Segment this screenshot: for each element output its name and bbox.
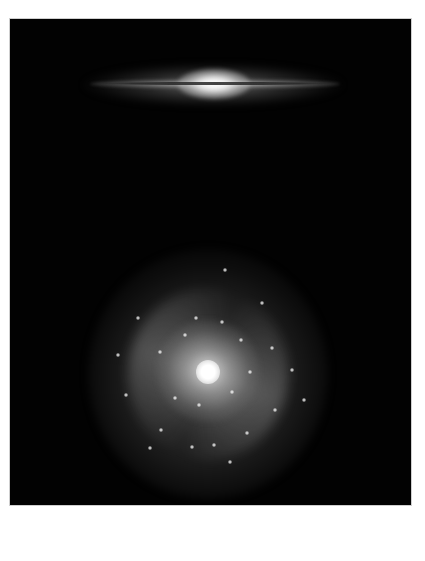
star-forming-knot	[260, 301, 264, 305]
star-forming-knot	[136, 316, 140, 320]
star-forming-knot	[197, 403, 201, 407]
spiral-galaxy-core	[196, 360, 220, 384]
star-forming-knot	[124, 393, 128, 397]
star-forming-knot	[220, 320, 224, 324]
star-forming-knot	[148, 446, 152, 450]
star-forming-knot	[245, 431, 249, 435]
star-forming-knot	[159, 428, 163, 432]
star-forming-knot	[239, 338, 243, 342]
star-forming-knot	[212, 443, 216, 447]
star-forming-knot	[302, 398, 306, 402]
star-forming-knot	[230, 390, 234, 394]
image-panel	[10, 19, 411, 505]
star-forming-knot	[183, 333, 187, 337]
star-forming-knot	[270, 346, 274, 350]
edge-on-galaxy-dust-lane	[98, 82, 334, 85]
star-forming-knot	[223, 268, 227, 272]
star-forming-knot	[228, 460, 232, 464]
star-forming-knot	[116, 353, 120, 357]
star-forming-knot	[190, 445, 194, 449]
star-forming-knot	[248, 370, 252, 374]
star-forming-knot	[290, 368, 294, 372]
star-forming-knot	[173, 396, 177, 400]
star-forming-knot	[158, 350, 162, 354]
star-forming-knot	[273, 408, 277, 412]
star-forming-knot	[194, 316, 198, 320]
